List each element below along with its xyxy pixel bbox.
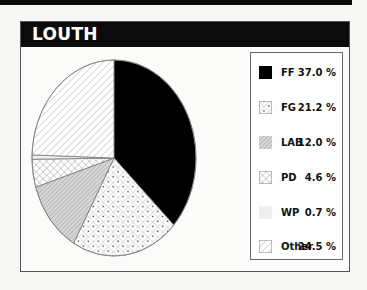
swatch-diagonal-icon (259, 240, 272, 253)
legend-item-other: Other 24.5 % (251, 237, 342, 257)
legend-item-pd: PD 4.6 % (251, 168, 342, 188)
swatch-solid-icon (259, 66, 272, 79)
legend-item-lab: LAB 12.0 % (251, 133, 342, 153)
pie-chart (29, 58, 199, 258)
swatch-crosshatch-dots-icon (259, 101, 272, 114)
legend-item-ff: FF 37.0 % (251, 63, 342, 83)
pie-slice-other (32, 60, 114, 158)
legend-item-wp: WP 0.7 % (251, 203, 342, 223)
chart-title: LOUTH (32, 24, 98, 44)
chart-header: LOUTH (21, 22, 349, 47)
swatch-gray-hatch-icon (259, 136, 272, 149)
top-bar (0, 0, 352, 5)
legend-item-fg: FG 21.2 % (251, 98, 342, 118)
swatch-crosshatch-icon (259, 171, 272, 184)
chart-legend: FF 37.0 % FG 21.2 % LAB 12.0 % PD 4.6 % … (250, 52, 343, 260)
swatch-light-gray-icon (259, 206, 272, 219)
